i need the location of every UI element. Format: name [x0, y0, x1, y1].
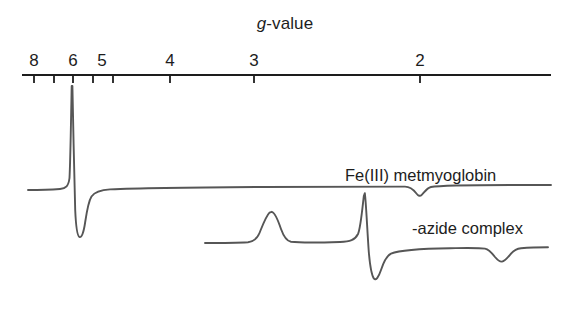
- trace-label-metmyoglobin: Fe(III) metmyoglobin: [345, 166, 496, 185]
- spectrum-canvas: [0, 0, 570, 310]
- trace-upper-path: [28, 86, 551, 237]
- trace-upper-metmyoglobin: [28, 86, 551, 237]
- epr-spectrum-figure: g-value 8 6 5 4 3 2 Fe(III) metmyoglobin…: [0, 0, 570, 310]
- trace-label-azide-complex: -azide complex: [412, 219, 523, 238]
- axis-group: [22, 75, 551, 83]
